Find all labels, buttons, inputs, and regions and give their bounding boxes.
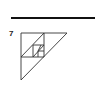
nested-triangle-figure [0, 0, 95, 99]
